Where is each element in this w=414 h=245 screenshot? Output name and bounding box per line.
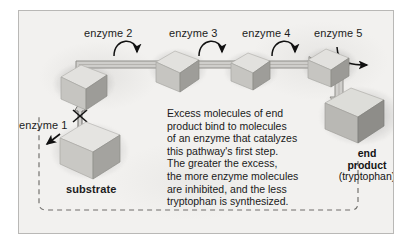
annotation-line: this pathway's first step. [167, 145, 302, 158]
annotation-line: the more enzyme molecules [167, 170, 302, 183]
annotation-line: are inhibited, and the less [167, 183, 302, 196]
enzyme-3-label: enzyme 3 [169, 27, 218, 39]
molecule-cube-step3 [153, 49, 203, 95]
annotation-text: Excess molecules of end product bind to … [167, 107, 302, 208]
diagram-panel: enzyme 2 enzyme 3 enzyme 4 enzyme 5 enzy… [18, 10, 394, 234]
end-product-caption: end product (tryptophan) [319, 148, 394, 183]
molecule-cube-end-product [321, 85, 389, 147]
molecule-cube-step4 [228, 51, 274, 93]
end-product-line1: end [319, 148, 394, 160]
enzyme-2-label: enzyme 2 [84, 27, 133, 39]
annotation-line: of an enzyme that catalyzes [167, 132, 302, 145]
catalysis-arrow-enzyme-2 [114, 41, 137, 56]
catalysis-arrow-enzyme-4 [272, 41, 295, 56]
annotation-line: tryptophan is synthesized. [167, 195, 302, 208]
enzyme-4-label: enzyme 4 [242, 27, 291, 39]
annotation-line: product bind to molecules [167, 120, 302, 133]
enzyme-5-label: enzyme 5 [314, 27, 363, 39]
annotation-line: The greater the excess, [167, 157, 302, 170]
enzyme-1-label: enzyme 1 [19, 119, 68, 131]
substrate-label: substrate [66, 183, 116, 195]
figure-root: enzyme 2 enzyme 3 enzyme 4 enzyme 5 enzy… [0, 0, 414, 245]
end-product-line3: (tryptophan) [319, 171, 394, 183]
molecule-cube-step2 [57, 63, 111, 113]
annotation-line: Excess molecules of end [167, 107, 302, 120]
